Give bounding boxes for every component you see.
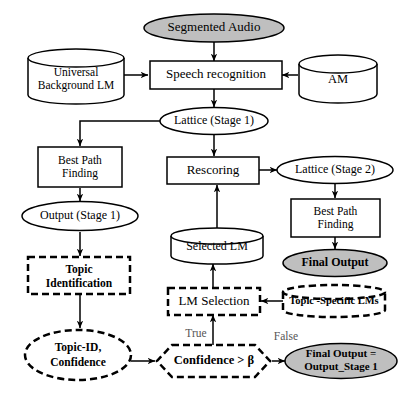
- rescoring-shape[interactable]: [167, 157, 259, 184]
- final-output-shape[interactable]: [283, 250, 387, 277]
- am-shape[interactable]: [299, 55, 377, 103]
- selected-lm-shape[interactable]: [171, 228, 263, 264]
- best-path-finding-left-shape[interactable]: [38, 147, 122, 187]
- lattice-stage1-shape[interactable]: [160, 108, 268, 135]
- best-path-finding-right-shape[interactable]: [291, 199, 380, 237]
- topic-specific-lms-shape[interactable]: [283, 285, 385, 317]
- topic-identification-shape[interactable]: [28, 257, 130, 294]
- universal-background-lm-shape[interactable]: [28, 49, 124, 104]
- confidence-threshold-shape[interactable]: [157, 345, 270, 377]
- flowchart-canvas: [0, 0, 403, 403]
- flowchart-diagram: Segmented Audio Universal Background LM …: [0, 0, 403, 403]
- edge-lattice1-to-bestpath-left: [80, 121, 160, 146]
- topic-id-confidence-shape[interactable]: [25, 330, 131, 380]
- lm-selection-shape[interactable]: [168, 288, 260, 315]
- output-stage1-shape[interactable]: [22, 202, 138, 231]
- node-shape-group: [22, 14, 397, 380]
- segmented-audio-shape[interactable]: [144, 14, 284, 42]
- final-output-stage1-shape[interactable]: [285, 344, 397, 379]
- speech-recognition-shape[interactable]: [150, 61, 282, 89]
- lattice-stage2-shape[interactable]: [277, 157, 393, 184]
